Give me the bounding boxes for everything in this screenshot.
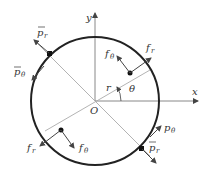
svg-text:θ: θ	[84, 147, 89, 155]
svg-text:θ: θ	[21, 71, 26, 79]
ftheta-lower-arrow	[61, 130, 74, 148]
svg-text:p: p	[37, 27, 44, 38]
label-ptheta-bar-top: p θ	[14, 66, 26, 79]
label-fr-lower: f r	[26, 142, 36, 155]
svg-text:r: r	[44, 32, 48, 40]
pr-bar-top-arrow	[34, 40, 49, 53]
diagonal-line-a	[38, 44, 150, 156]
svg-text:r: r	[32, 147, 36, 155]
svg-text:p: p	[149, 142, 156, 153]
label-ptheta-right: p θ	[164, 122, 176, 135]
svg-text:θ: θ	[110, 53, 115, 61]
svg-text:r: r	[151, 47, 155, 55]
radius-label: r	[106, 82, 112, 93]
y-axis-label: y	[85, 12, 92, 23]
svg-text:p: p	[164, 122, 171, 133]
diagram-canvas: y x O r θ p r p θ f θ f r f r f θ p θ p …	[0, 0, 209, 177]
label-ftheta-upper: f θ	[104, 48, 115, 61]
svg-text:p: p	[14, 66, 21, 77]
ftheta-upper-arrow	[117, 56, 130, 73]
label-pr-bar-top: p r	[37, 27, 48, 40]
label-fr-upper: f r	[145, 42, 155, 55]
label-pr-bar-bottom: p r	[149, 142, 160, 155]
svg-text:θ: θ	[171, 127, 176, 135]
theta-label: θ	[129, 83, 135, 94]
svg-text:r: r	[156, 147, 160, 155]
x-axis-label: x	[192, 86, 198, 97]
origin-label: O	[90, 105, 98, 116]
label-ftheta-lower: f θ	[78, 142, 89, 155]
ptheta-bar-top-arrow	[32, 66, 44, 80]
